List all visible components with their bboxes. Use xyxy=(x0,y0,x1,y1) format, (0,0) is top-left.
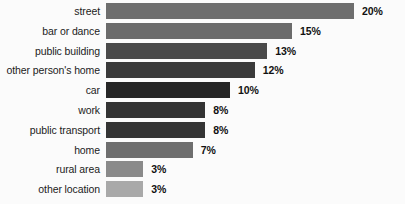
bar-track: 3% xyxy=(106,161,405,177)
chart-row: rural area 3% xyxy=(0,161,405,177)
bar-track: 3% xyxy=(106,181,405,197)
bar-track: 20% xyxy=(106,3,405,19)
value-label: 12% xyxy=(263,64,284,76)
bar xyxy=(106,43,267,59)
bar xyxy=(106,23,292,39)
bar xyxy=(106,142,193,158)
category-label: work xyxy=(0,104,106,116)
chart-row: other person's home 12% xyxy=(0,62,405,78)
chart-row: bar or dance 15% xyxy=(0,23,405,39)
value-label: 3% xyxy=(151,163,166,175)
category-label: car xyxy=(0,84,106,96)
bar-chart-rows: street 20% bar or dance 15% public build… xyxy=(0,3,405,201)
category-label: public building xyxy=(0,45,106,57)
bar-track: 12% xyxy=(106,62,405,78)
category-label: other person's home xyxy=(0,64,106,76)
bar-track: 7% xyxy=(106,142,405,158)
value-label: 13% xyxy=(275,45,296,57)
value-label: 7% xyxy=(201,144,216,156)
value-label: 10% xyxy=(238,84,259,96)
bar xyxy=(106,102,205,118)
bar-track: 8% xyxy=(106,102,405,118)
chart-row: other location 3% xyxy=(0,181,405,197)
bar-track: 10% xyxy=(106,82,405,98)
bar xyxy=(106,161,143,177)
value-label: 8% xyxy=(213,124,228,136)
bar xyxy=(106,62,255,78)
bar xyxy=(106,122,205,138)
chart-row: car 10% xyxy=(0,82,405,98)
chart-row: public building 13% xyxy=(0,43,405,59)
bar-track: 15% xyxy=(106,23,405,39)
category-label: bar or dance xyxy=(0,25,106,37)
value-label: 3% xyxy=(151,183,166,195)
category-label: home xyxy=(0,144,106,156)
bar-track: 13% xyxy=(106,43,405,59)
value-label: 8% xyxy=(213,104,228,116)
chart-row: work 8% xyxy=(0,102,405,118)
category-label: street xyxy=(0,5,106,17)
value-label: 20% xyxy=(362,5,383,17)
chart-row: public transport 8% xyxy=(0,122,405,138)
chart-row: street 20% xyxy=(0,3,405,19)
chart-row: home 7% xyxy=(0,142,405,158)
category-label: other location xyxy=(0,183,106,195)
bar xyxy=(106,3,354,19)
bar-chart: street 20% bar or dance 15% public build… xyxy=(0,0,405,204)
bar xyxy=(106,82,230,98)
category-label: rural area xyxy=(0,163,106,175)
value-label: 15% xyxy=(300,25,321,37)
bar-track: 8% xyxy=(106,122,405,138)
bar xyxy=(106,181,143,197)
category-label: public transport xyxy=(0,124,106,136)
